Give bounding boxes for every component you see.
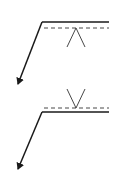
weld-symbol-arrow-side bbox=[18, 89, 109, 169]
fillet-weld-icon bbox=[67, 28, 85, 47]
arrow-leader-icon bbox=[18, 112, 42, 169]
diagram-svg bbox=[0, 0, 120, 174]
weld-symbol-other-side bbox=[18, 22, 109, 84]
fillet-weld-icon bbox=[67, 89, 85, 108]
arrow-leader-icon bbox=[18, 22, 42, 84]
welding-symbol-diagram: welding-symbols bbox=[0, 0, 120, 174]
